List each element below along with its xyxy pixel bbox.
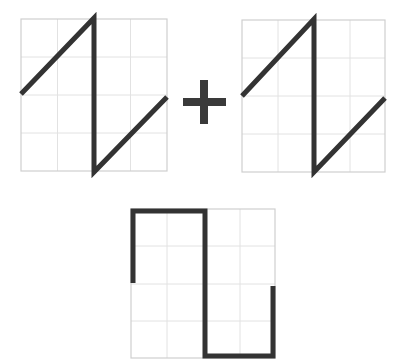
wave-sum-diagram — [0, 0, 404, 360]
sawtooth-panel-b — [242, 19, 385, 172]
square-wave-panel — [131, 209, 275, 358]
sawtooth-panel-a — [21, 18, 167, 172]
plus-icon — [183, 80, 226, 124]
